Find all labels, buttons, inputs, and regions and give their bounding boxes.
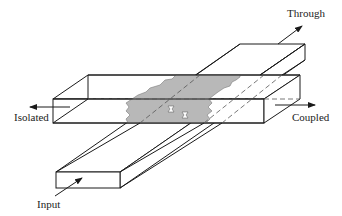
isolated-label: Isolated <box>14 111 49 123</box>
coupled-label: Coupled <box>292 111 330 123</box>
directional-coupler-diagram: Through Isolated Coupled Input <box>0 0 342 216</box>
through-label: Through <box>287 7 325 19</box>
input-label: Input <box>37 198 60 210</box>
through-arrow-icon <box>278 26 302 44</box>
main-waveguide-front-face <box>56 172 120 188</box>
